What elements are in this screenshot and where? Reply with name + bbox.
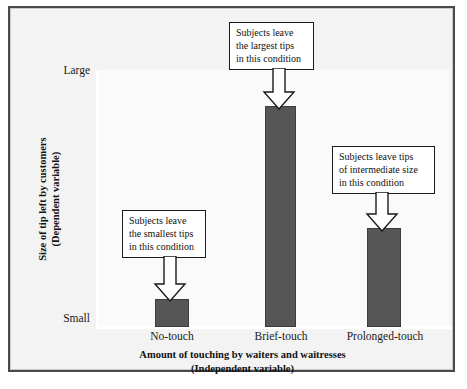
callout-brief-touch: Subjects leave the largest tips in this …	[229, 22, 314, 70]
callout-no-touch: Subjects leave the smallest tips in this…	[122, 210, 206, 258]
callout-arrow-down-prolonged-touch	[365, 192, 399, 232]
x-axis-tick-no-touch: No-touch	[122, 330, 222, 342]
callout-arrow-down-no-touch	[153, 256, 187, 302]
y-axis-title-line-2: (Dependent variable)	[49, 94, 62, 304]
bar-no-touch	[155, 299, 189, 327]
x-axis-title-line-2: (Independent variable)	[50, 362, 435, 376]
x-axis-tick-brief-touch: Brief-touch	[231, 330, 331, 342]
chart-page: Large Small Size of tip left by customer…	[0, 0, 467, 389]
bar-prolonged-touch	[367, 228, 401, 327]
callout-arrow-down-brief-touch	[262, 68, 296, 110]
x-axis-title-line-1: Amount of touching by waiters and waitre…	[50, 348, 435, 362]
y-axis-line	[96, 70, 99, 327]
y-axis-title-line-1: Size of tip left by customers	[36, 94, 49, 304]
callout-prolonged-touch: Subjects leave tips of intermediate size…	[332, 146, 435, 194]
y-axis-title: Size of tip left by customers (Dependent…	[36, 94, 62, 304]
x-axis-title: Amount of touching by waiters and waitre…	[50, 348, 435, 375]
x-axis-tick-prolonged-touch: Prolonged-touch	[330, 330, 440, 342]
bar-brief-touch	[265, 106, 296, 327]
y-axis-tick-large: Large	[42, 64, 90, 76]
figure-frame: Large Small Size of tip left by customer…	[8, 6, 455, 372]
y-axis-tick-small: Small	[42, 312, 90, 324]
